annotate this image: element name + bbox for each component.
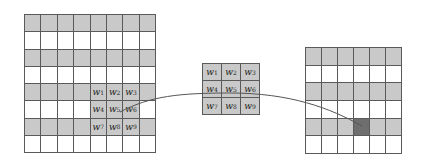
input-kernel-cell: w5 bbox=[107, 101, 123, 118]
input-cell bbox=[123, 15, 139, 32]
output-cell bbox=[354, 101, 370, 119]
input-cell bbox=[140, 50, 156, 67]
input-cell bbox=[25, 136, 41, 153]
input-kernel-cell: w2 bbox=[107, 84, 123, 101]
output-cell bbox=[370, 83, 386, 101]
output-cell bbox=[354, 48, 370, 66]
input-cell bbox=[140, 119, 156, 136]
output-cell bbox=[306, 136, 322, 154]
output-cell bbox=[370, 48, 386, 66]
input-cell bbox=[41, 101, 57, 118]
input-cell bbox=[74, 136, 90, 153]
input-cell bbox=[74, 15, 90, 32]
output-cell bbox=[338, 136, 354, 154]
kernel-weight-cell: w6 bbox=[241, 81, 260, 98]
input-cell bbox=[58, 32, 74, 49]
input-cell bbox=[25, 32, 41, 49]
output-cell bbox=[354, 83, 370, 101]
output-cell bbox=[370, 101, 386, 119]
input-cell bbox=[41, 84, 57, 101]
output-cell bbox=[306, 101, 322, 119]
output-cell bbox=[322, 136, 338, 154]
input-cell bbox=[41, 67, 57, 84]
output-cell bbox=[386, 66, 402, 84]
output-cell bbox=[386, 48, 402, 66]
input-kernel-cell: w1 bbox=[91, 84, 107, 101]
output-cell bbox=[386, 136, 402, 154]
output-cell bbox=[354, 66, 370, 84]
input-cell bbox=[74, 84, 90, 101]
output-cell bbox=[322, 66, 338, 84]
input-cell bbox=[25, 101, 41, 118]
output-feature-map-grid bbox=[305, 47, 402, 154]
input-cell bbox=[74, 50, 90, 67]
input-cell bbox=[140, 32, 156, 49]
input-cell bbox=[25, 84, 41, 101]
input-cell bbox=[58, 50, 74, 67]
kernel-weight-cell: w3 bbox=[241, 64, 260, 81]
input-cell bbox=[140, 84, 156, 101]
input-cell bbox=[25, 50, 41, 67]
kernel-weight-cell: w4 bbox=[203, 81, 222, 98]
output-cell bbox=[370, 119, 386, 137]
input-cell bbox=[140, 136, 156, 153]
kernel-weight-cell: w7 bbox=[203, 98, 222, 115]
output-cell bbox=[370, 66, 386, 84]
kernel-weight-cell: w8 bbox=[222, 98, 241, 115]
input-kernel-cell: w7 bbox=[91, 119, 107, 136]
input-cell bbox=[91, 67, 107, 84]
input-cell bbox=[107, 15, 123, 32]
output-cell bbox=[306, 119, 322, 137]
input-cell bbox=[58, 119, 74, 136]
input-cell bbox=[25, 119, 41, 136]
input-cell bbox=[58, 136, 74, 153]
input-cell bbox=[91, 32, 107, 49]
input-cell bbox=[58, 15, 74, 32]
input-cell bbox=[107, 136, 123, 153]
output-highlight-cell bbox=[354, 119, 370, 137]
input-kernel-cell: w9 bbox=[123, 119, 139, 136]
input-cell bbox=[140, 67, 156, 84]
output-cell bbox=[386, 101, 402, 119]
kernel-weight-cell: w9 bbox=[241, 98, 260, 115]
input-cell bbox=[41, 119, 57, 136]
output-cell bbox=[338, 101, 354, 119]
output-cell bbox=[306, 66, 322, 84]
output-cell bbox=[322, 83, 338, 101]
input-cell bbox=[140, 101, 156, 118]
input-kernel-cell: w3 bbox=[123, 84, 139, 101]
input-cell bbox=[25, 67, 41, 84]
input-cell bbox=[140, 15, 156, 32]
output-cell bbox=[386, 83, 402, 101]
output-cell bbox=[322, 101, 338, 119]
input-cell bbox=[91, 15, 107, 32]
input-cell bbox=[58, 84, 74, 101]
output-cell bbox=[306, 83, 322, 101]
output-cell bbox=[386, 119, 402, 137]
input-cell bbox=[107, 50, 123, 67]
input-feature-map-grid: w1w2w3w4w5w6w7w8w9 bbox=[24, 14, 156, 153]
input-cell bbox=[74, 119, 90, 136]
input-cell bbox=[58, 101, 74, 118]
input-cell bbox=[41, 32, 57, 49]
input-cell bbox=[74, 32, 90, 49]
input-kernel-cell: w8 bbox=[107, 119, 123, 136]
input-cell bbox=[91, 136, 107, 153]
input-cell bbox=[107, 32, 123, 49]
output-cell bbox=[338, 66, 354, 84]
output-cell bbox=[322, 119, 338, 137]
kernel-weight-cell: w5 bbox=[222, 81, 241, 98]
input-cell bbox=[107, 67, 123, 84]
output-cell bbox=[370, 136, 386, 154]
input-cell bbox=[74, 101, 90, 118]
input-cell bbox=[123, 136, 139, 153]
input-cell bbox=[41, 15, 57, 32]
output-cell bbox=[354, 136, 370, 154]
input-kernel-cell: w6 bbox=[123, 101, 139, 118]
input-cell bbox=[25, 15, 41, 32]
input-cell bbox=[41, 136, 57, 153]
kernel-grid: w1w2w3w4w5w6w7w8w9 bbox=[202, 63, 260, 115]
input-cell bbox=[91, 50, 107, 67]
input-cell bbox=[123, 32, 139, 49]
kernel-weight-cell: w1 bbox=[203, 64, 222, 81]
